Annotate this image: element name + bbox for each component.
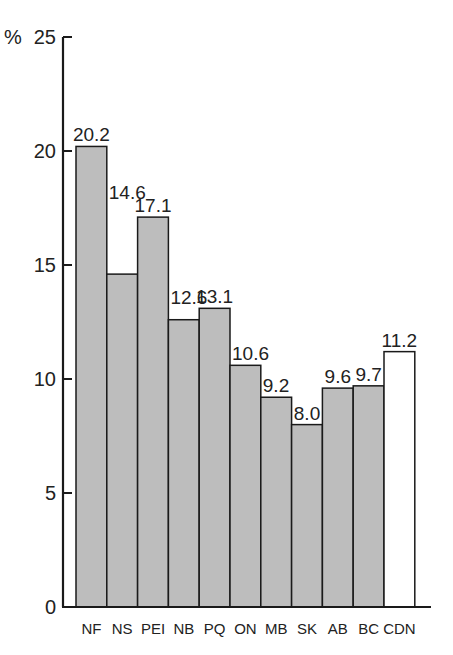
category-label: PEI: [141, 620, 165, 637]
bar-nb: [168, 320, 199, 607]
category-label: SK: [297, 620, 317, 637]
bar-chart: 20.214.617.112.613.110.69.28.09.69.711.2…: [0, 0, 453, 655]
bar-pei: [138, 217, 169, 607]
category-label: PQ: [204, 620, 226, 637]
category-labels-group: NFNSPEINBPQONMBSKABBCCDN: [81, 620, 415, 637]
category-label: MB: [265, 620, 288, 637]
y-tick-label: 20: [34, 140, 56, 162]
category-label: CDN: [383, 620, 416, 637]
value-label: 20.2: [73, 124, 110, 145]
bar-cdn: [384, 352, 415, 607]
value-label: 13.1: [196, 286, 233, 307]
value-label: 9.2: [263, 375, 289, 396]
bar-sk: [292, 425, 323, 607]
bar-nf: [76, 146, 107, 607]
value-label: 17.1: [135, 195, 172, 216]
category-label: BC: [358, 620, 379, 637]
value-label: 9.7: [355, 364, 381, 385]
category-label: AB: [328, 620, 348, 637]
y-tick-label: 10: [34, 368, 56, 390]
value-label: 11.2: [382, 330, 418, 351]
bar-on: [230, 365, 261, 607]
category-label: NF: [81, 620, 101, 637]
value-label: 10.6: [232, 343, 269, 364]
bar-ns: [107, 274, 138, 607]
bar-bc: [353, 386, 384, 607]
bar-mb: [261, 397, 292, 607]
bar-pq: [199, 308, 230, 607]
y-tick-label: 5: [45, 482, 56, 504]
value-label: 9.6: [325, 366, 351, 387]
y-tick-label: 0: [45, 596, 56, 618]
category-label: NB: [173, 620, 194, 637]
bar-ab: [322, 388, 353, 607]
y-tick-label: 25: [34, 26, 56, 48]
category-label: ON: [234, 620, 257, 637]
y-axis-label: %: [4, 26, 22, 48]
y-tick-label: 15: [34, 254, 56, 276]
category-label: NS: [112, 620, 133, 637]
y-ticks-group: 0510152025: [34, 26, 72, 618]
value-label: 8.0: [294, 403, 320, 424]
